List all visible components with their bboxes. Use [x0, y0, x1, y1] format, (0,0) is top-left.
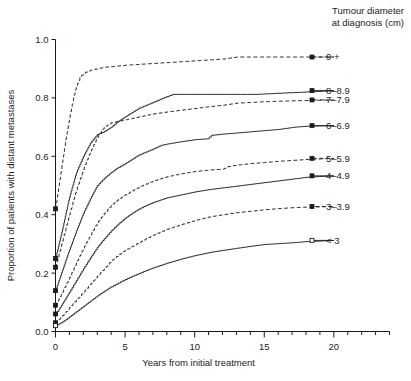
- end-marker-3-3-9: [310, 205, 314, 209]
- x-axis-title: Years from initial treatment: [142, 357, 255, 368]
- start-marker-6-6-9: [54, 289, 58, 293]
- y-axis-tick-label: 0.0: [35, 326, 48, 337]
- y-axis: 0.00.20.40.60.81.0: [35, 34, 55, 337]
- y-axis-tick-label: 0.6: [35, 151, 48, 162]
- start-marker-5-5-9: [54, 303, 58, 307]
- x-axis-tick-label: 10: [189, 341, 200, 352]
- x-axis-tick-label: 5: [122, 341, 127, 352]
- end-marker--3: [310, 238, 314, 242]
- legend-label-5-5-9[interactable]: 5–5.9: [326, 153, 350, 164]
- legend-label-7-7-9[interactable]: 7–7.9: [326, 94, 350, 105]
- y-axis-title: Proportion of patients with distant meta…: [5, 89, 16, 281]
- legend-label-6-6-9[interactable]: 6–6.9: [326, 120, 350, 131]
- x-axis-tick-label: 15: [259, 341, 270, 352]
- chart-container: 0.00.20.40.60.81.0 05101520 Tumour diame…: [0, 0, 411, 381]
- y-axis-tick-label: 1.0: [35, 34, 48, 45]
- legend-title-line-2: at diagnosis (cm): [332, 17, 404, 28]
- curve--3: [56, 240, 334, 325]
- end-marker-7-7-9: [310, 98, 314, 102]
- start-marker-9-: [54, 207, 58, 211]
- start-marker-7-7-9: [54, 265, 58, 269]
- curve-4-4-9: [56, 176, 334, 314]
- legend-title-line-1: Tumour diameter: [332, 5, 404, 16]
- start-marker-8-8-9: [54, 257, 58, 261]
- curve-8-8-9: [56, 91, 334, 259]
- end-marker-4-4-9: [310, 174, 314, 178]
- x-axis: 05101520: [53, 332, 390, 352]
- legend: Tumour diameterat diagnosis (cm)9 +8–8.9…: [326, 5, 404, 246]
- legend-label--3[interactable]: < 3: [326, 235, 339, 246]
- curve-7-7-9: [56, 100, 334, 267]
- end-marker-8-8-9: [310, 89, 314, 93]
- y-axis-tick-label: 0.2: [35, 268, 48, 279]
- end-marker-9-: [310, 55, 314, 59]
- x-axis-tick-label: 0: [53, 341, 58, 352]
- legend-label-4-4-9[interactable]: 4–4.9: [326, 170, 350, 181]
- metastases-kaplan-meier-chart: 0.00.20.40.60.81.0 05101520 Tumour diame…: [0, 0, 411, 381]
- y-axis-tick-label: 0.4: [35, 209, 48, 220]
- start-marker-4-4-9: [54, 312, 58, 316]
- end-marker-6-6-9: [310, 124, 314, 128]
- legend-label-9-[interactable]: 9 +: [326, 51, 340, 62]
- curve-3-3-9: [56, 207, 334, 323]
- endpoint-markers-layer: [54, 55, 315, 328]
- y-axis-tick-label: 0.8: [35, 92, 48, 103]
- start-marker--3: [54, 324, 58, 328]
- curve-5-5-9: [56, 158, 334, 305]
- x-axis-tick-label: 20: [329, 341, 340, 352]
- legend-label-3-3-9[interactable]: 3–3.9: [326, 201, 350, 212]
- end-marker-5-5-9: [310, 156, 314, 160]
- curves-layer: [56, 57, 334, 326]
